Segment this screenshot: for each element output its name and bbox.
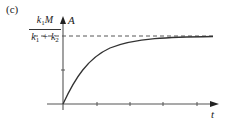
- y-axis-arrow-icon: [60, 16, 66, 24]
- plot-area: [0, 0, 227, 124]
- x-axis-arrow-icon: [210, 101, 219, 107]
- data-curve: [63, 37, 213, 105]
